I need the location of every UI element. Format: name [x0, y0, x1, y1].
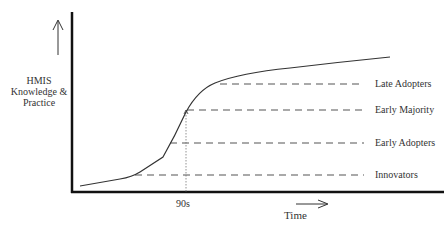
y-axis-label-line-3: Practice: [10, 97, 68, 108]
label-innovators: Innovators: [375, 169, 418, 180]
x-tick-label-90s: 90s: [176, 198, 190, 209]
label-early-majority: Early Majority: [375, 104, 434, 115]
y-axis-label-line-1: HMIS: [10, 75, 68, 86]
adoption-curve: [80, 57, 390, 186]
right-arrow-icon: [296, 200, 328, 208]
up-arrow-icon: [53, 20, 63, 55]
y-axis-label: HMIS Knowledge & Practice: [10, 75, 68, 108]
y-axis-label-line-2: Knowledge &: [10, 86, 68, 97]
x-axis-label: Time: [284, 210, 307, 221]
label-early-adopters: Early Adopters: [375, 137, 435, 148]
label-late-adopters: Late Adopters: [375, 78, 431, 89]
